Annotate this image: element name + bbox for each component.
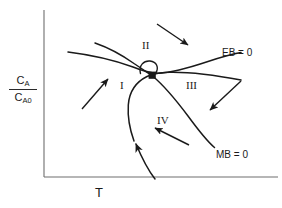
arrow-region-IV <box>155 128 189 145</box>
lower-branch-curve-upper <box>128 72 241 141</box>
lower-branch-curve <box>136 144 155 179</box>
region-label-I: I <box>120 80 124 91</box>
arrow-region-III <box>210 81 241 110</box>
arrow-region-II <box>157 24 188 45</box>
multiple-steady-states-figure: CA CA0 T I II III IV EB = 0 MB = 0 <box>0 0 282 208</box>
plot-canvas <box>0 0 282 208</box>
y-axis-denominator-subscript: A0 <box>22 96 31 105</box>
region-label-II: II <box>142 40 149 51</box>
mass-balance-curve <box>95 43 215 148</box>
steady-state-point <box>149 72 156 79</box>
y-axis-label: CA CA0 <box>6 74 40 105</box>
energy-balance-curve-label: EB = 0 <box>222 48 252 58</box>
x-axis-label: T <box>95 186 103 199</box>
region-label-IV: IV <box>157 115 169 126</box>
region-label-III: III <box>186 80 197 91</box>
y-axis-numerator: CA <box>6 74 40 89</box>
y-axis-numerator-subscript: A <box>24 79 29 88</box>
arrow-region-I <box>82 79 108 109</box>
mass-balance-curve-label: MB = 0 <box>216 150 248 160</box>
y-axis-denominator: CA0 <box>6 90 40 105</box>
